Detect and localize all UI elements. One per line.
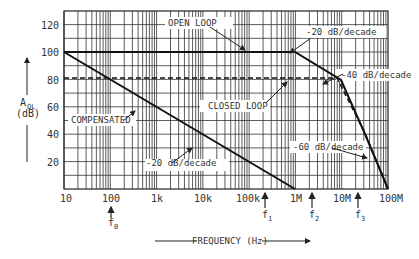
label-closed-loop: CLOSED LOOP <box>208 101 268 111</box>
label-open-loop: OPEN LOOP <box>168 18 217 28</box>
svg-text:FREQUENCY (Hz): FREQUENCY (Hz) <box>192 236 268 246</box>
svg-text:10: 10 <box>60 193 72 204</box>
y-axis-label: A OL (dB) <box>16 58 40 162</box>
x-axis-label: FREQUENCY (Hz) <box>155 236 310 246</box>
x-axis-ticks: 10 100 1k 10k 100k 1M 10M 100M <box>60 193 403 204</box>
svg-text:80: 80 <box>47 75 59 86</box>
svg-text:120: 120 <box>41 20 59 31</box>
svg-text:2: 2 <box>315 215 319 223</box>
svg-text:40: 40 <box>47 129 59 140</box>
svg-text:3: 3 <box>361 215 365 223</box>
label-slope-20-bottom: -20 dB/decade <box>146 158 216 168</box>
svg-text:1k: 1k <box>151 193 163 204</box>
label-slope-60: -60 dB/decade <box>293 142 363 152</box>
svg-text:1: 1 <box>268 215 272 223</box>
svg-text:100M: 100M <box>379 193 403 204</box>
svg-text:60: 60 <box>47 102 59 113</box>
svg-text:10k: 10k <box>194 193 212 204</box>
svg-text:0: 0 <box>114 223 118 231</box>
svg-text:10M: 10M <box>333 193 351 204</box>
svg-text:100k: 100k <box>236 193 260 204</box>
label-compensated: COMPENSATED <box>71 115 131 125</box>
svg-text:(dB): (dB) <box>16 108 40 119</box>
svg-text:A: A <box>20 97 26 108</box>
bode-plot: 20 40 60 80 100 120 10 100 1k 10k 100k 1… <box>0 0 419 259</box>
label-slope-40: -40 dB/decade <box>341 70 411 80</box>
y-axis-ticks: 20 40 60 80 100 120 <box>41 20 59 168</box>
svg-text:1M: 1M <box>290 193 302 204</box>
svg-text:100: 100 <box>41 47 59 58</box>
label-slope-20-top: -20 dB/decade <box>306 27 376 37</box>
svg-text:20: 20 <box>47 157 59 168</box>
svg-text:100: 100 <box>102 193 120 204</box>
